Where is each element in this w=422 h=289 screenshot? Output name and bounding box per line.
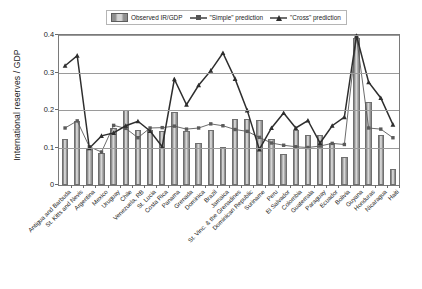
x-axis-labels: Antigua and BarbudaSt. Kitts and NevisAr… <box>0 0 422 289</box>
x-axis-tick-label: Haiti <box>386 188 400 202</box>
chart-container: Observed IR/GDP "Simple" prediction "Cro… <box>0 0 422 289</box>
